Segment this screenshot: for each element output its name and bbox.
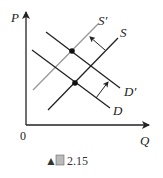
origin-label: 0: [20, 129, 26, 143]
supply-shifted-label: S′: [98, 13, 108, 28]
demand-label: D: [112, 103, 123, 118]
equilibrium-point-new: [69, 48, 75, 54]
supply-curve: [48, 38, 118, 110]
caption-number: 2.15: [67, 154, 88, 168]
supply-curve-shifted: [33, 24, 98, 90]
x-axis-label: Q: [140, 133, 150, 148]
demand-shifted-label: D′: [123, 84, 136, 99]
supply-label: S: [120, 25, 127, 40]
demand-shift-arrow: [96, 82, 108, 98]
demand-curve-shifted: [46, 32, 120, 88]
caption-label-box: 圖: [55, 153, 67, 167]
supply-shift-arrow: [90, 37, 105, 50]
supply-demand-diagram: P Q 0 S′ S D′ D ▲ 圖 2.15: [0, 0, 163, 178]
equilibrium-point-original: [72, 80, 78, 86]
y-axis-label: P: [10, 10, 19, 25]
